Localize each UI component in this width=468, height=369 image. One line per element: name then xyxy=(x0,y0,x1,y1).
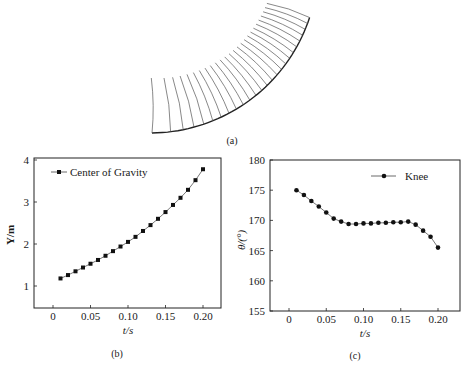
y-axis-label: θ/(°) xyxy=(235,230,248,251)
chart-center-of-gravity: 00.050.100.150.20 1234 Center of Gravity… xyxy=(4,154,221,336)
legend-label: Knee xyxy=(405,170,428,182)
y-tick-label: 2 xyxy=(24,238,30,250)
stick-figure-frame xyxy=(265,8,308,24)
x-tick-label: 0.15 xyxy=(391,313,411,325)
series-center-of-gravity xyxy=(59,167,206,280)
y-tick-label: 155 xyxy=(249,305,266,317)
x-tick-label: 0.20 xyxy=(428,313,448,325)
x-tick-label: 0 xyxy=(50,310,56,322)
legend-square-marker-icon xyxy=(57,170,61,174)
data-point xyxy=(339,219,344,224)
data-point xyxy=(96,258,100,262)
x-axis-label: t/s xyxy=(123,324,133,336)
data-point xyxy=(171,203,175,207)
data-point xyxy=(391,220,396,225)
data-point xyxy=(149,223,153,227)
chart-knee-angle: 00.050.100.150.20 155160165170175180 Kne… xyxy=(235,154,460,339)
stick-figure-frame xyxy=(151,78,153,133)
x-axis-label: t/s xyxy=(360,327,370,339)
y-tick-label: 165 xyxy=(249,245,266,257)
series-line xyxy=(61,169,204,278)
data-point xyxy=(398,220,403,225)
data-point xyxy=(104,254,108,258)
series-line xyxy=(296,190,438,247)
y-tick-label: 180 xyxy=(249,154,266,166)
stick-figure-frame xyxy=(261,16,303,35)
data-point xyxy=(413,222,418,227)
y-tick-label: 3 xyxy=(24,196,30,208)
stick-figure-frame xyxy=(164,78,171,132)
data-point xyxy=(74,269,78,273)
data-point xyxy=(201,167,205,171)
data-point xyxy=(141,229,145,233)
x-tick-label: 0 xyxy=(286,313,292,325)
data-point xyxy=(126,240,130,244)
panel-a-motion-sequence xyxy=(151,3,309,133)
caption-c: (c) xyxy=(349,350,360,362)
data-point xyxy=(369,221,374,226)
stick-figure-frame xyxy=(267,3,310,17)
stick-figure-frame xyxy=(233,50,267,85)
data-point xyxy=(66,273,70,277)
data-point xyxy=(59,276,63,280)
data-point xyxy=(406,219,411,224)
data-point xyxy=(376,221,381,226)
series-knee xyxy=(294,188,440,250)
stick-figure-frame xyxy=(199,71,221,118)
data-point xyxy=(346,222,351,227)
y-tick-label: 170 xyxy=(249,214,266,226)
y-axis-ticks: 1234 xyxy=(24,154,38,292)
data-point xyxy=(354,222,359,227)
caption-a: (a) xyxy=(226,135,237,147)
data-point xyxy=(324,210,329,215)
data-point xyxy=(294,188,299,193)
stick-figure-frame xyxy=(237,47,272,80)
data-point xyxy=(119,245,123,249)
stick-figure-frame xyxy=(263,12,305,30)
figure-canvas: (a) 00.050.100.150.20 1234 Center of Gra… xyxy=(0,0,468,369)
stick-figure-frame xyxy=(210,66,236,110)
data-point xyxy=(111,249,115,253)
data-point xyxy=(81,266,85,270)
x-tick-label: 0.05 xyxy=(81,310,101,322)
stick-figure-frame xyxy=(187,74,204,124)
data-point xyxy=(156,217,160,221)
y-axis-ticks: 155160165170175180 xyxy=(249,154,274,317)
data-point xyxy=(317,204,322,209)
stick-figure-frame xyxy=(241,43,277,75)
stick-figure-frame xyxy=(229,54,262,91)
data-point xyxy=(421,228,426,233)
legend: Knee xyxy=(371,170,428,182)
y-axis-label: Y/m xyxy=(4,225,16,245)
data-point xyxy=(134,235,138,239)
data-point xyxy=(436,245,441,250)
x-tick-label: 0.05 xyxy=(317,313,337,325)
x-tick-label: 0.15 xyxy=(156,310,176,322)
data-point xyxy=(164,210,168,214)
data-point xyxy=(186,188,190,192)
x-tick-label: 0.10 xyxy=(118,310,138,322)
data-point xyxy=(309,199,314,204)
data-point xyxy=(361,221,366,226)
legend-label: Center of Gravity xyxy=(70,166,148,178)
data-point xyxy=(331,216,336,221)
data-point xyxy=(194,178,198,182)
y-tick-label: 4 xyxy=(24,154,30,166)
stick-figure-frame xyxy=(173,77,184,129)
y-tick-label: 160 xyxy=(249,275,266,287)
data-point xyxy=(179,196,183,200)
caption-b: (b) xyxy=(111,348,123,360)
x-tick-label: 0.10 xyxy=(354,313,374,325)
data-point xyxy=(302,193,307,198)
legend-circle-marker-icon xyxy=(382,174,387,179)
y-tick-label: 175 xyxy=(249,184,266,196)
data-point xyxy=(89,262,93,266)
data-point xyxy=(384,221,389,226)
plot-frame xyxy=(34,158,221,308)
curved-track xyxy=(152,18,310,134)
data-point xyxy=(428,234,433,239)
y-tick-label: 1 xyxy=(24,280,30,292)
x-tick-label: 0.20 xyxy=(193,310,213,322)
legend: Center of Gravity xyxy=(51,166,148,178)
